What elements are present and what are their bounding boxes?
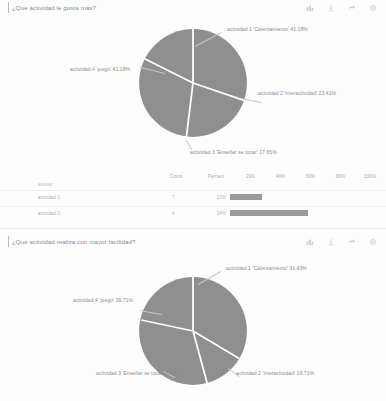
row-bar [230, 210, 308, 216]
download-icon[interactable] [327, 4, 335, 12]
axis-tick-80: 80% [336, 174, 345, 179]
question-toolbar-1 [306, 4, 377, 12]
pie-svg-1 [138, 28, 248, 138]
cell-count: 4 [172, 211, 175, 216]
title-accent-bar [8, 2, 9, 13]
survey-report-page: ¿Que actividad le gusta mas? [0, 0, 386, 401]
pie-label-2-a: actividad 1 'Calentamiento' 31.43% [226, 265, 307, 271]
cell-answer: actividad 1 [38, 195, 60, 200]
cell-count: 7 [172, 195, 175, 200]
pie-chart-2: actividad 1 'Calentamiento' 31.43% activ… [0, 252, 386, 401]
share-icon[interactable] [348, 4, 356, 12]
pie-label-2-c: actividad 3 'Enseñar se tocar' 7.14% [96, 370, 180, 376]
share-icon[interactable] [348, 238, 356, 246]
pie-label-2-b: actividad 2 'interactividad' 19.71% [236, 370, 314, 376]
cell-percent: 24% [212, 211, 226, 216]
table-row[interactable]: actividad 1 7 13% [0, 190, 386, 205]
pie-label-1-d: actividad 4 'juego' 41.18% [70, 66, 130, 72]
pie-label-2-d: actividad 4 'juego' 39.71% [73, 297, 133, 303]
axis-tick-100: 100% [364, 174, 376, 179]
table-row[interactable]: actividad 2 4 24% [0, 206, 386, 221]
question-title-wrap-2: ¿Que actividad realiza con mayor facilid… [8, 236, 135, 247]
question-title-wrap-1: ¿Que actividad le gusta mas? [8, 2, 96, 13]
page-title: ¿Que actividad le gusta mas? [12, 4, 96, 11]
gear-icon[interactable] [369, 4, 377, 12]
axis-tick-20: 20% [246, 174, 255, 179]
question-header-2: ¿Que actividad realiza con mayor facilid… [0, 234, 386, 252]
chart-icon[interactable] [306, 4, 314, 12]
pie-label-1-a: actividad 1 'Calentamiento' 41.18% [227, 26, 308, 32]
gear-icon[interactable] [369, 238, 377, 246]
question-toolbar-2 [306, 238, 377, 246]
pie-label-1-c: actividad 3 'Enseñar se tocar' 17.65% [190, 149, 277, 155]
section-divider [0, 228, 386, 229]
title-accent-bar [8, 236, 9, 247]
pie-graphic-1 [138, 28, 248, 138]
col-header-percent: Percent [208, 174, 224, 179]
download-icon[interactable] [327, 238, 335, 246]
chart-icon[interactable] [306, 238, 314, 246]
pie-label-1-b: actividad 2 'interactividad' 23.41% [258, 90, 336, 96]
question-header-1: ¿Que actividad le gusta mas? [0, 0, 386, 18]
axis-tick-40: 40% [276, 174, 285, 179]
col-header-count: Count [170, 174, 182, 179]
axis-tick-60: 60% [306, 174, 315, 179]
row-bar [230, 194, 262, 200]
col-header-answer: answer [38, 182, 53, 187]
page-title-2: ¿Que actividad realiza con mayor facilid… [12, 238, 135, 245]
pie-chart-1: actividad 1 'Calentamiento' 41.18% activ… [0, 18, 386, 168]
answers-table: answer Count Percent 20% 40% 60% 80% 100… [0, 172, 386, 224]
table-header-row: answer Count Percent 20% 40% 60% 80% 100… [0, 172, 386, 183]
cell-percent: 13% [212, 195, 226, 200]
cell-answer: actividad 2 [38, 211, 60, 216]
